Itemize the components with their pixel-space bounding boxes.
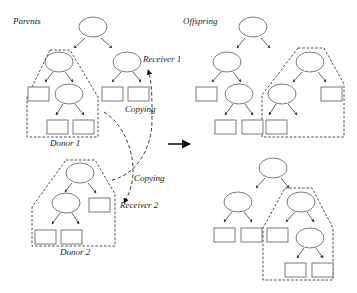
edge-arrow — [288, 104, 297, 115]
tree-edges — [45, 38, 326, 258]
receiver1-label: Receiver 1 — [142, 54, 181, 64]
edge-arrow — [307, 212, 314, 222]
parent-1-terminal-node — [102, 87, 123, 101]
edge-arrow — [112, 72, 121, 82]
edge-arrow — [316, 248, 323, 258]
edge-arrow — [133, 72, 141, 82]
offspring-1-terminal-node — [242, 120, 263, 134]
edge-arrow — [72, 213, 79, 224]
edge-arrow — [101, 38, 112, 48]
offspring-2-function-node — [259, 158, 287, 178]
parent-2-terminal-node — [89, 198, 110, 212]
edge-arrow — [88, 183, 96, 193]
receiver2-label: Receiver 2 — [119, 200, 159, 210]
edge-arrow — [75, 104, 84, 115]
offspring-2-terminal-node — [241, 228, 262, 242]
offspring-2-terminal-node — [285, 263, 306, 277]
offspring-2-function-node — [224, 192, 252, 212]
edge-arrow — [233, 72, 241, 82]
copying-label-bottom: Copying — [134, 173, 165, 183]
edge-arrow — [52, 213, 60, 224]
parent-1-function-node — [45, 52, 73, 72]
copy-donor1-to-receiver2 — [104, 112, 133, 203]
edge-arrow — [45, 72, 53, 82]
parent-1-function-node — [55, 84, 83, 104]
parent-1-terminal-node — [28, 87, 49, 101]
edge-arrow — [318, 72, 326, 82]
edge-arrow — [297, 248, 304, 258]
offspring-1-terminal-node — [321, 87, 342, 101]
edge-arrow — [212, 72, 221, 82]
edge-arrow — [225, 104, 233, 115]
parent-2-terminal-node — [61, 230, 82, 244]
parent-1-function-node — [113, 52, 141, 72]
edge-arrow — [56, 104, 63, 115]
donor1-label: Donor 1 — [49, 138, 80, 148]
parent-1-terminal-node — [47, 120, 68, 134]
offspring-2-function-node — [287, 192, 315, 212]
edge-arrow — [293, 72, 302, 82]
edge-arrow — [224, 212, 232, 222]
parent-1-terminal-node — [128, 87, 149, 101]
offspring-1-function-node — [213, 52, 241, 72]
parent-2-function-node — [66, 163, 94, 183]
crossover-diagram: Parents Offspring Receiver 1 Copying Don… — [0, 0, 357, 293]
offspring-1-function-node — [225, 84, 253, 104]
offspring-2-function-node — [296, 228, 324, 248]
edge-arrow — [65, 72, 73, 82]
parent-1-terminal-node — [73, 120, 94, 134]
edge-arrow — [286, 212, 295, 222]
edge-arrow — [244, 212, 252, 222]
offspring-1-function-node — [239, 17, 267, 37]
offspring-1-terminal-node — [196, 87, 217, 101]
edge-arrow — [65, 183, 72, 192]
offspring-1-function-node — [296, 52, 324, 72]
edge-arrow — [245, 104, 253, 115]
offspring-1-terminal-node — [215, 120, 236, 134]
parent-2-function-node — [52, 193, 80, 213]
edge-arrow — [269, 104, 276, 115]
edge-arrow — [261, 38, 270, 48]
offspring-label: Offspring — [183, 16, 218, 26]
offspring-1-terminal-node — [266, 120, 287, 134]
parent-2-terminal-node — [35, 230, 56, 244]
edge-arrow — [256, 178, 265, 188]
parents-label: Parents — [12, 16, 41, 26]
parent-1-function-node — [79, 17, 107, 37]
edge-arrow — [281, 178, 289, 188]
edge-arrow — [74, 38, 85, 48]
offspring-2-terminal-node — [312, 263, 333, 277]
offspring-2-terminal-node — [267, 228, 288, 242]
donor2-label: Donor 2 — [59, 247, 91, 257]
edge-arrow — [237, 38, 245, 48]
offspring-2-terminal-node — [214, 228, 235, 242]
offspring-1-function-node — [268, 84, 296, 104]
copying-label-top: Copying — [125, 104, 156, 114]
